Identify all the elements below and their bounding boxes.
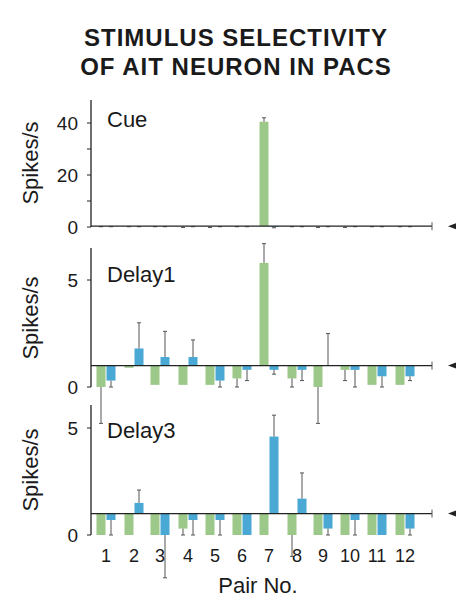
bar	[125, 514, 134, 535]
bar	[233, 514, 242, 535]
bar	[406, 514, 415, 529]
bar	[368, 514, 377, 535]
bar	[97, 514, 106, 535]
bar	[107, 514, 116, 520]
bar	[260, 514, 269, 535]
y-axis-label: Spikes/s	[18, 428, 43, 511]
bar	[161, 514, 170, 535]
baseline-arrow-icon	[448, 511, 456, 517]
panel-title: Cue	[107, 107, 147, 132]
bar	[260, 263, 269, 366]
x-tick-label: 6	[237, 546, 247, 566]
x-tick-label: 9	[318, 546, 328, 566]
bar	[378, 514, 387, 535]
bar	[298, 499, 307, 514]
y-tick-label: 5	[67, 270, 78, 291]
bar	[314, 366, 323, 387]
bar	[368, 366, 377, 385]
panel-title: Delay3	[107, 418, 175, 443]
chart-canvas: 02040Spikes/sCue05Spikes/sDelay105Spikes…	[0, 0, 472, 616]
bar	[206, 366, 215, 385]
bar	[216, 366, 225, 381]
bar	[151, 366, 160, 385]
bar	[135, 503, 144, 514]
x-tick-label: 4	[183, 546, 193, 566]
bar	[406, 366, 415, 377]
x-axis-label: Pair No.	[218, 573, 297, 598]
x-tick-label: 1	[101, 546, 111, 566]
bar	[189, 357, 198, 366]
bar	[341, 514, 350, 535]
bar	[179, 366, 188, 385]
y-tick-label: 5	[67, 418, 78, 439]
y-tick-label: 0	[67, 217, 78, 238]
baseline-arrow-icon	[448, 363, 456, 369]
bar	[314, 514, 323, 535]
bar	[107, 366, 116, 381]
x-tick-label: 3	[155, 546, 165, 566]
bar	[243, 514, 252, 535]
bar	[189, 514, 198, 520]
x-tick-label: 10	[340, 546, 360, 566]
bar	[179, 514, 188, 529]
bar	[135, 348, 144, 365]
bar	[270, 437, 279, 514]
x-tick-label: 5	[210, 546, 220, 566]
y-tick-label: 0	[67, 525, 78, 546]
bar	[206, 514, 215, 535]
bar	[324, 514, 333, 529]
bar	[151, 514, 160, 535]
panel-title: Delay1	[107, 262, 175, 287]
y-tick-label: 0	[67, 377, 78, 398]
y-tick-label: 20	[57, 165, 78, 186]
x-tick-label: 12	[395, 546, 415, 566]
bar	[260, 122, 269, 227]
x-tick-label: 11	[368, 546, 387, 566]
x-tick-label: 2	[129, 546, 139, 566]
bar	[97, 366, 106, 387]
x-tick-label: 8	[292, 546, 302, 566]
bar	[288, 514, 297, 535]
bar	[378, 366, 387, 377]
y-axis-label: Spikes/s	[18, 276, 43, 359]
bar	[288, 366, 297, 379]
bar	[396, 366, 405, 385]
bar	[351, 514, 360, 520]
y-axis-label: Spikes/s	[18, 121, 43, 204]
bar	[396, 514, 405, 535]
bar	[233, 366, 242, 379]
y-tick-label: 40	[57, 113, 78, 134]
baseline-arrow-icon	[448, 223, 456, 229]
x-tick-label: 7	[264, 546, 274, 566]
bar	[161, 357, 170, 366]
bar	[216, 514, 225, 520]
